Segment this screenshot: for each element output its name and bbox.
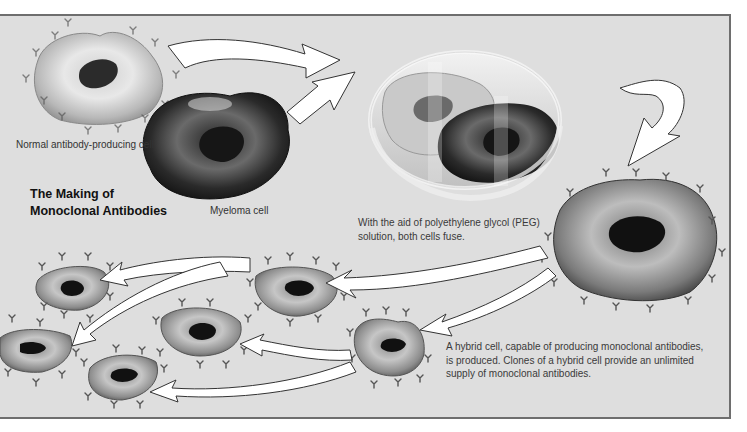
clone-cell (153, 299, 251, 368)
myeloma-cell-label: Myeloma cell (210, 204, 268, 217)
fusion-caption-line: solution, both cells fuse. (358, 230, 540, 244)
diagram-title: The Making of Monoclonal Antibodies (30, 186, 167, 220)
arrow-normal-to-dish (168, 40, 340, 78)
hybrid-caption-line: A hybrid cell, capable of producing mono… (446, 340, 703, 354)
normal-cell-label: Normal antibody-producing cell (16, 138, 154, 151)
title-line-1: The Making of (30, 186, 167, 203)
clone-cell (0, 315, 79, 386)
myeloma-cell (143, 93, 289, 199)
arrow-dish-to-hybrid (620, 80, 684, 166)
clone-cell (81, 345, 167, 408)
title-line-2: Monoclonal Antibodies (30, 203, 167, 220)
clone-cell (247, 253, 347, 326)
petri-dish (370, 52, 560, 198)
hybrid-caption-line: is produced. Clones of a hybrid cell pro… (446, 354, 703, 368)
hybrid-caption-line: supply of monoclonal antibodies. (446, 367, 703, 381)
clone-cell (347, 307, 431, 388)
fusion-caption-line: With the aid of polyethylene glycol (PEG… (358, 216, 540, 230)
arrow-myeloma-to-dish (287, 72, 355, 124)
clone-cell (36, 253, 113, 322)
fusion-caption: With the aid of polyethylene glycol (PEG… (358, 216, 540, 243)
hybrid-caption: A hybrid cell, capable of producing mono… (446, 340, 703, 381)
hybrid-cell (539, 169, 725, 312)
